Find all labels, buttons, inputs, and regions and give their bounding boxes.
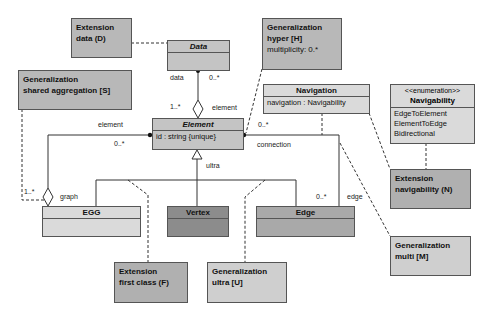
note-extension-first-class[interactable]: Extension first class (F) <box>114 262 188 303</box>
class-egg[interactable]: EGG <box>42 206 141 237</box>
class-edge-name: Edge <box>257 207 354 219</box>
class-navigation[interactable]: Navigation navigation : Navigability <box>263 84 370 114</box>
class-element[interactable]: Element id : string {unique} <box>152 118 244 150</box>
label-conn-mult: 0..* <box>258 121 269 128</box>
enum-literals: EdgeToElement ElementToEdge Bidirectiona… <box>391 108 474 140</box>
class-data-name: Data <box>168 41 229 53</box>
note-line: multi [M] <box>395 251 466 262</box>
enum-literal: Bidirectional <box>394 129 471 139</box>
enum-header: <<enumeration>> Navigability <box>391 85 474 108</box>
enum-literal: ElementToEdge <box>394 119 471 129</box>
element-attribute: id : string {unique} <box>153 131 243 143</box>
enum-stereotype: <<enumeration>> <box>391 86 474 96</box>
note-line: Generalization <box>267 22 337 33</box>
label-edge-mult: 0..* <box>316 193 327 200</box>
note-line: ultra [U] <box>212 277 282 288</box>
label-element-role-left: element <box>98 121 123 128</box>
class-navigation-name: Navigation <box>264 85 369 97</box>
note-line: shared aggregation [S] <box>23 85 127 96</box>
note-line: hyper [H] <box>267 33 337 44</box>
note-line: Generalization <box>395 240 466 251</box>
generalization-triangle-icon <box>192 150 202 159</box>
label-data-mult: 0..* <box>209 74 220 81</box>
note-generalization-ultra[interactable]: Generalization ultra [U] <box>207 262 287 303</box>
label-ultra: ultra <box>206 162 220 169</box>
navigation-attribute: navigation : Navigability <box>264 97 369 109</box>
label-connection-role: connection <box>257 141 291 148</box>
class-data[interactable]: Data <box>167 40 230 71</box>
note-extension-data[interactable]: Extension data (D) <box>71 18 132 58</box>
label-graph-role: graph <box>60 193 78 200</box>
class-element-name: Element <box>153 119 243 131</box>
label-element-mult-top: 1..* <box>170 103 181 110</box>
class-vertex[interactable]: Vertex <box>167 206 229 237</box>
class-edge[interactable]: Edge <box>256 206 355 237</box>
note-line: Generalization <box>23 74 127 85</box>
note-line: Extension <box>395 173 466 184</box>
aggregation-diamond-icon <box>193 100 203 118</box>
note-line: Extension <box>119 266 183 277</box>
enum-literal: EdgeToElement <box>394 109 471 119</box>
note-generalization-shared[interactable]: Generalization shared aggregation [S] <box>18 70 132 110</box>
note-line: Extension <box>76 22 127 33</box>
note-line: Generalization <box>212 266 282 277</box>
label-element-role-top: element <box>212 104 237 111</box>
label-element-mult-left: 0..* <box>114 140 125 147</box>
note-line: multiplicity: 0.* <box>267 44 337 55</box>
enum-navigability[interactable]: <<enumeration>> Navigability EdgeToEleme… <box>390 84 475 144</box>
note-generalization-hyper[interactable]: Generalization hyper [H] multiplicity: 0… <box>262 18 342 70</box>
label-egg-mult: 1..* <box>24 188 35 195</box>
label-data-role: data <box>170 74 184 81</box>
label-edge-role: edge <box>347 193 363 200</box>
note-extension-navigability[interactable]: Extension navigability (N) <box>390 169 471 209</box>
note-line: data (D) <box>76 33 127 44</box>
uml-diagram: Data Element id : string {unique} EGG Ve… <box>0 0 484 316</box>
enum-name: Navigability <box>391 96 474 106</box>
note-line: navigability (N) <box>395 184 466 195</box>
class-vertex-name: Vertex <box>168 207 228 219</box>
note-generalization-multi[interactable]: Generalization multi [M] <box>390 236 471 276</box>
aggregation-diamond-icon <box>43 188 53 206</box>
note-line: first class (F) <box>119 277 183 288</box>
class-egg-name: EGG <box>43 207 140 219</box>
